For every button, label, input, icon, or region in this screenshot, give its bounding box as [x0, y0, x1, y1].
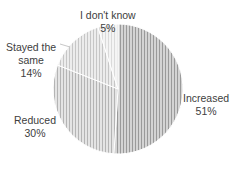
- label-pct: 30%: [14, 127, 56, 140]
- label-name-line2: same: [6, 54, 56, 67]
- label-stayed-the-same: Stayed the same 14%: [6, 41, 56, 80]
- label-pct: 14%: [6, 67, 56, 80]
- label-name: Reduced: [14, 114, 56, 127]
- label-name-line1: Stayed the: [6, 41, 56, 54]
- label-i-dont-know: I don't know 5%: [80, 9, 136, 35]
- label-reduced: Reduced 30%: [14, 114, 56, 140]
- leader-line: [60, 44, 70, 47]
- label-pct: 5%: [80, 22, 136, 35]
- label-pct: 51%: [183, 105, 229, 118]
- label-name: I don't know: [80, 9, 136, 22]
- label-name: Increased: [183, 92, 229, 105]
- label-increased: Increased 51%: [183, 92, 229, 118]
- slice-increased: [114, 24, 183, 154]
